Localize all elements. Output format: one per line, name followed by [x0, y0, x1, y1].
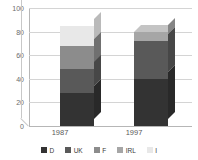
bar-1987-segment-UK	[60, 69, 94, 93]
bar-1997-segment-UK	[134, 41, 168, 79]
y-axis-line	[29, 8, 30, 126]
gridline-0	[29, 126, 192, 127]
legend-item-f[interactable]: F	[94, 147, 106, 154]
legend-item-irl[interactable]: IRL	[117, 147, 136, 154]
bar-1997-side-D	[168, 65, 175, 119]
bar-1987-side-D	[94, 79, 101, 119]
gridline-100	[29, 8, 192, 9]
legend-item-uk[interactable]: UK	[65, 147, 83, 154]
bar-1987	[60, 26, 94, 126]
bar-1997-segment-IRL	[134, 32, 168, 41]
depth-left-edge	[21, 0, 22, 118]
legend-swatch-d	[41, 147, 47, 153]
bar-1997-segment-D	[134, 79, 168, 126]
legend-label-irl: IRL	[126, 147, 136, 154]
legend-label-d: D	[49, 147, 54, 154]
legend-item-i[interactable]: I	[147, 147, 157, 154]
legend-item-d[interactable]: D	[41, 147, 54, 154]
category-label-1997: 1997	[104, 128, 164, 137]
chart-legend: D UK F IRL I	[0, 140, 198, 160]
gridlines	[29, 8, 192, 126]
bar-1987-segment-F	[60, 46, 94, 70]
bar-1997	[134, 32, 168, 126]
legend-label-uk: UK	[74, 147, 83, 154]
legend-swatch-i	[147, 147, 153, 153]
category-label-1987: 1987	[30, 128, 90, 137]
legend-label-f: F	[102, 147, 106, 154]
legend-swatch-uk	[65, 147, 71, 153]
legend-swatch-f	[94, 147, 100, 153]
legend-label-i: I	[155, 147, 157, 154]
plot-area: 100 80 60 40 20 0	[0, 0, 198, 138]
bar-1987-segment-I	[60, 26, 94, 46]
bar-1987-segment-D	[60, 93, 94, 126]
legend-swatch-irl	[117, 147, 123, 153]
stacked-column-chart: 100 80 60 40 20 0	[0, 0, 198, 160]
